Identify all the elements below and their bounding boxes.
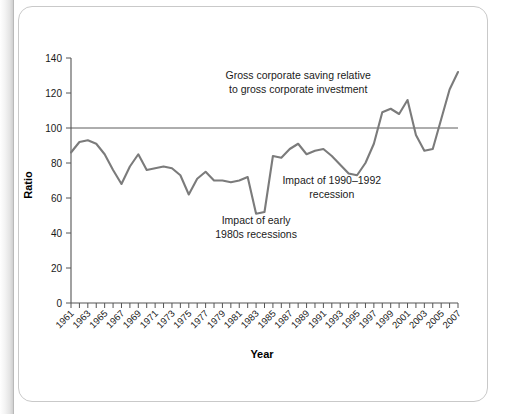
- y-axis-title: Ratio: [22, 171, 34, 199]
- annotation-line: 1980s recessions: [215, 228, 297, 240]
- annotation-recession-1990-1992: Impact of 1990–1992recession: [282, 174, 381, 200]
- annotation-line: Impact of early: [222, 214, 292, 226]
- y-tick-label: 140: [45, 53, 62, 64]
- annotation-recession-early-1980s: Impact of early1980s recessions: [215, 214, 297, 240]
- x-axis: 1961196319651967196919711973197519771979…: [53, 303, 463, 330]
- y-tick-label: 0: [56, 298, 62, 309]
- annotation-series-callout: Gross corporate saving relativeto gross …: [225, 69, 370, 95]
- chart-annotations: Gross corporate saving relativeto gross …: [215, 69, 381, 240]
- annotation-line: Gross corporate saving relative: [225, 69, 370, 81]
- annotation-line: recession: [309, 188, 354, 200]
- y-tick-label: 20: [51, 263, 63, 274]
- y-tick-label: 60: [51, 193, 63, 204]
- x-axis-title: Year: [250, 348, 274, 360]
- line-chart: 020406080100120140 196119631965196719691…: [0, 0, 506, 414]
- annotation-line: Impact of 1990–1992: [282, 174, 381, 186]
- y-tick-label: 120: [45, 88, 62, 99]
- x-tick-label: 2007: [440, 308, 463, 331]
- y-tick-label: 80: [51, 158, 63, 169]
- y-axis: 020406080100120140: [45, 53, 71, 309]
- y-tick-label: 40: [51, 228, 63, 239]
- chart-svg: 020406080100120140 196119631965196719691…: [0, 0, 506, 414]
- y-tick-label: 100: [45, 123, 62, 134]
- annotation-line: to gross corporate investment: [229, 83, 367, 95]
